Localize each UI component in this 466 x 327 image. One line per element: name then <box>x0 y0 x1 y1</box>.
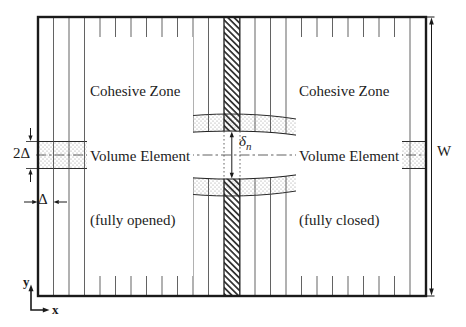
callout-fully-closed: Cohesive Zone Volume Element (fully clos… <box>296 37 402 276</box>
y-axis-label: y <box>23 274 30 290</box>
width-dimension-label: W <box>437 143 451 160</box>
element-width-dimension-label: Δ <box>38 191 48 208</box>
width-extension-lines <box>426 17 435 296</box>
x-axis-label: x <box>52 302 59 318</box>
band-height-dimension-label: 2Δ <box>13 145 30 162</box>
callout-fully-opened: Cohesive Zone Volume Element (fully open… <box>87 37 193 276</box>
callout-closed-line3: (fully closed) <box>299 210 399 232</box>
opening-dimension-symbol: δ <box>239 133 246 149</box>
callout-closed-line2: Volume Element <box>299 146 399 168</box>
callout-opened-line1: Cohesive Zone <box>90 81 190 103</box>
width-dimension-arrow <box>429 18 434 296</box>
callout-opened-line3: (fully opened) <box>90 210 190 232</box>
opening-dimension-label: δn <box>239 133 251 152</box>
opening-dimension-subscript: n <box>246 140 252 152</box>
cohesive-zone-diagram: Cohesive Zone Volume Element (fully open… <box>0 0 466 327</box>
callout-closed-line1: Cohesive Zone <box>299 81 399 103</box>
callout-opened-line2: Volume Element <box>90 146 190 168</box>
